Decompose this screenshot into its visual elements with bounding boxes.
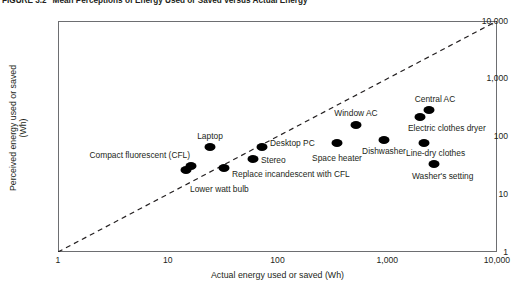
- x-axis-tick-label: 1: [28, 256, 88, 265]
- data-point-marker: [429, 160, 440, 168]
- data-point-marker: [186, 162, 197, 170]
- data-point-label: Stereo: [261, 156, 286, 165]
- data-point-label: Window AC: [334, 109, 377, 118]
- plot-area: [58, 21, 497, 252]
- data-point-label: Washer's setting: [412, 172, 473, 181]
- figure-number: FIGURE 3.2: [2, 0, 47, 5]
- data-point-label: Space heater: [312, 154, 362, 163]
- figure-caption: FIGURE 3.2Mean Perceptions of Energy Use…: [0, 0, 508, 9]
- data-point-label: Laptop: [197, 132, 223, 141]
- data-point-label: Line-dry clothes: [406, 149, 465, 158]
- data-point-label: Dishwasher: [362, 147, 406, 156]
- y-axis-tick-label: 100: [456, 132, 508, 141]
- data-point-label: Electric clothes dryer: [408, 124, 486, 133]
- data-point-marker: [424, 106, 435, 114]
- x-axis-tick-label: 1,000: [357, 256, 417, 265]
- data-point-marker: [332, 139, 343, 147]
- x-axis-tick-label: 10: [138, 256, 198, 265]
- x-axis-tick-label: 10,000: [467, 256, 515, 265]
- data-point-marker: [379, 136, 390, 144]
- data-point-marker: [257, 143, 268, 151]
- data-point-marker: [219, 164, 230, 172]
- data-point-marker: [351, 121, 362, 129]
- y-axis-tick-label: 1,000: [456, 74, 508, 83]
- data-point-label: Central AC: [415, 95, 456, 104]
- y-axis-tick-label: 10: [456, 190, 508, 199]
- x-axis-tick-label: 100: [248, 256, 308, 265]
- data-point-label: Desktop PC: [270, 139, 315, 148]
- y-axis-title: Perceived energy used or saved (Wh): [8, 58, 28, 198]
- figure-title: Mean Perceptions of Energy Used or Saved…: [53, 0, 308, 5]
- x-axis-title: Actual energy used or saved (Wh): [58, 270, 497, 280]
- data-point-marker: [248, 155, 259, 163]
- y-axis-tick-label: 10,000: [456, 17, 508, 26]
- data-point-label: Replace incandescent with CFL: [232, 170, 350, 179]
- data-point-marker: [415, 113, 426, 121]
- data-point-label: Lower watt bulb: [190, 185, 249, 194]
- data-point-label: Compact fluorescent (CFL): [89, 151, 190, 160]
- data-point-marker: [419, 139, 430, 147]
- data-point-marker: [205, 143, 216, 151]
